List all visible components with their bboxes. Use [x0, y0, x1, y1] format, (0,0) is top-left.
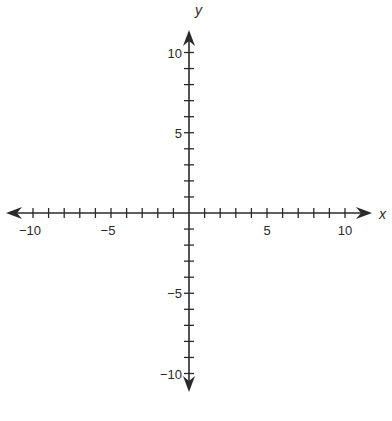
y-axis-label: y [194, 2, 203, 18]
y-tick-label: −5 [167, 286, 182, 301]
coordinate-plane: −10−5510 105−5−10 x y [0, 0, 392, 421]
x-tick-label: −5 [101, 223, 116, 238]
x-axis-label: x [378, 206, 387, 222]
y-tick-label: 10 [168, 46, 182, 61]
y-tick-label: −10 [160, 367, 182, 382]
x-axis-tick-labels: −10−5510 [19, 223, 352, 238]
x-tick-label: −10 [19, 223, 41, 238]
y-tick-label: 5 [175, 126, 182, 141]
x-tick-label: 10 [338, 223, 352, 238]
x-tick-label: 5 [263, 223, 270, 238]
